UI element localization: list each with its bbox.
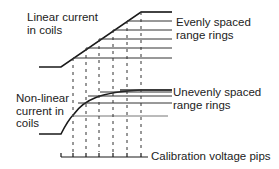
linear-current-label: Linear current in coils [27, 11, 98, 36]
unevenly-spaced-label: Unevenly spaced range rings [173, 86, 261, 111]
unevenly-spaced-rings [72, 90, 172, 116]
calibration-pips [61, 153, 148, 157]
evenly-spaced-label: Evenly spaced range rings [176, 16, 251, 41]
calibration-pips-label: Calibration voltage pips [151, 150, 271, 163]
nonlinear-current-label: Non-linear current in coils [16, 92, 69, 130]
